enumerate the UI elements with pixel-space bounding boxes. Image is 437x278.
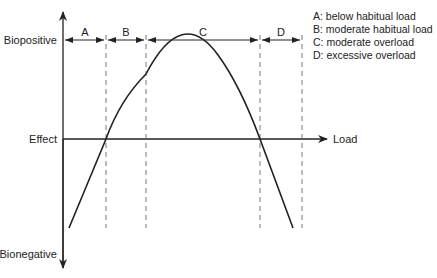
zone-label-c: C bbox=[199, 26, 207, 38]
zone-label-a: A bbox=[81, 26, 89, 38]
legend-item-c: C: moderate overload bbox=[313, 36, 414, 48]
zone-label-d: D bbox=[277, 26, 285, 38]
legend-item-b: B: moderate habitual load bbox=[313, 23, 433, 35]
zone-boundaries bbox=[106, 35, 302, 228]
zone-label-b: B bbox=[122, 26, 129, 38]
legend: A: below habitual load B: moderate habit… bbox=[313, 10, 433, 61]
legend-item-a: A: below habitual load bbox=[313, 10, 416, 22]
bionegative-label: Bionegative bbox=[0, 248, 57, 260]
effect-curve bbox=[69, 34, 293, 228]
effect-label: Effect bbox=[29, 133, 57, 145]
load-label: Load bbox=[333, 133, 357, 145]
biopositive-label: Biopositive bbox=[4, 34, 57, 46]
legend-item-d: D: excessive overload bbox=[313, 49, 416, 61]
load-effect-diagram: A B C D Biopositive Effect Bionegative L… bbox=[0, 0, 437, 278]
